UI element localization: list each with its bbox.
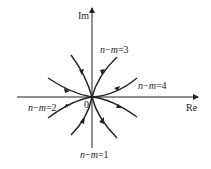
branch-label-3: n−m=3 [100, 45, 129, 55]
imag-axis-label: Im [78, 11, 89, 21]
root-locus-diagram: Im Re 0 n−m=1 n−m=2 n−m=3 n−m=4 [0, 0, 211, 169]
branch-left-upper [48, 78, 92, 97]
branch-upper-left [71, 55, 92, 97]
branch-label-1: n−m=1 [80, 150, 109, 160]
real-axis-label: Re [186, 103, 197, 113]
branch-upper-right [92, 57, 117, 97]
branch-label-2: n−m=2 [28, 103, 57, 113]
diagram-svg [0, 0, 211, 169]
origin-label: 0 [84, 100, 89, 110]
branch-label-4: n−m=4 [138, 81, 167, 91]
